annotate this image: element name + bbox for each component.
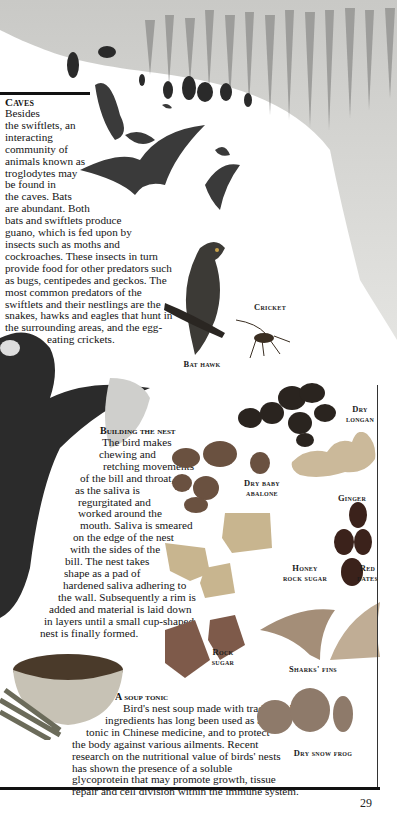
- label-line: Dry: [330, 404, 390, 414]
- page-number: 29: [360, 796, 372, 811]
- honey-rock-sugar-illustration: [165, 508, 275, 603]
- rock-sugar-label: Rock sugar: [203, 647, 243, 667]
- bat-hawk-illustration: [160, 228, 240, 358]
- dry-snow-frog-illustration: [255, 682, 355, 742]
- label-line: abalone: [232, 488, 292, 498]
- label-line: sugar: [203, 657, 243, 667]
- rock-sugar-illustration: [160, 605, 250, 680]
- label-line: dates: [345, 573, 390, 583]
- dry-snow-frog-label: Dry snow frog: [268, 748, 378, 758]
- bat-hawk-label: Bat hawk: [162, 359, 242, 369]
- caves-line: community of: [5, 144, 255, 156]
- dry-longan-label: Dry longan: [330, 404, 390, 424]
- building-nest-heading: Building the nest: [100, 425, 175, 436]
- caves-line: animals known as: [5, 156, 255, 168]
- dry-baby-abalone-label: Dry baby abalone: [232, 478, 292, 498]
- column-rule: [377, 385, 378, 788]
- section-rule-top: [0, 92, 90, 95]
- ginger-illustration: [290, 432, 380, 482]
- sharks-fins-illustration: [255, 600, 385, 665]
- cricket-illustration: [234, 318, 294, 360]
- red-dates-label: Red dates: [345, 563, 390, 583]
- caves-line: interacting: [5, 132, 255, 144]
- sharks-fins-label: Sharks' fins: [268, 664, 358, 674]
- cricket-label: Cricket: [240, 302, 300, 312]
- label-line: Rock: [203, 647, 243, 657]
- soup-tonic-heading: A soup tonic: [115, 691, 168, 702]
- label-line: Red: [345, 563, 390, 573]
- dry-baby-abalone-illustration: [168, 438, 273, 513]
- label-line: Dry baby: [232, 478, 292, 488]
- section-rule-bottom: [0, 787, 380, 790]
- label-line: longan: [330, 414, 390, 424]
